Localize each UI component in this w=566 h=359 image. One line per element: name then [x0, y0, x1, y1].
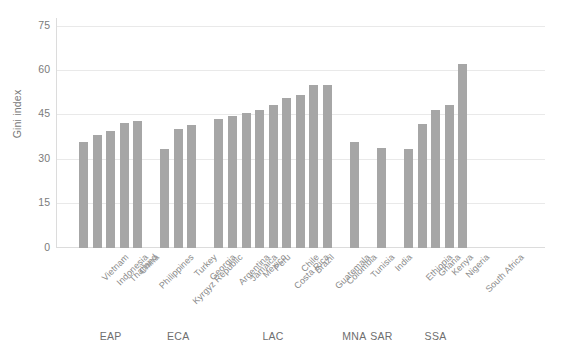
y-tick-label-60: 60	[24, 63, 50, 75]
region-label-lac: LAC	[233, 330, 313, 342]
gridline-75	[57, 26, 545, 27]
bar	[377, 148, 386, 247]
bar	[323, 85, 332, 248]
region-label-ssa: SSA	[396, 330, 476, 342]
bar	[404, 149, 413, 247]
bar	[458, 64, 467, 247]
bar	[255, 110, 264, 248]
bar	[228, 116, 237, 248]
bar	[282, 98, 291, 247]
bar	[214, 119, 223, 248]
gridline-60	[57, 70, 545, 71]
y-axis-title: Gini index	[11, 54, 23, 174]
region-label-eca: ECA	[138, 330, 218, 342]
bar	[106, 131, 115, 247]
bar	[174, 129, 183, 247]
y-tick-label-45: 45	[24, 107, 50, 119]
y-tick-label-30: 30	[24, 152, 50, 164]
bar	[242, 113, 251, 247]
x-tick-label: India	[393, 252, 414, 273]
bar	[350, 142, 359, 248]
bar	[296, 95, 305, 247]
bar	[187, 125, 196, 248]
bar	[120, 123, 129, 248]
bar	[93, 135, 102, 248]
bar	[79, 142, 88, 247]
x-tick-label: Philippines	[157, 252, 196, 291]
bar	[431, 110, 440, 248]
y-tick-label-0: 0	[24, 241, 50, 253]
y-tick-label-15: 15	[24, 196, 50, 208]
gini-index-bar-chart: Gini index 01530456075 VietnamIndonesiaT…	[0, 0, 566, 359]
bar	[269, 105, 278, 248]
bar	[309, 85, 318, 247]
bar	[160, 149, 169, 248]
y-tick-label-75: 75	[24, 19, 50, 31]
bar	[445, 105, 454, 247]
bar	[133, 121, 142, 247]
bar	[418, 124, 427, 248]
